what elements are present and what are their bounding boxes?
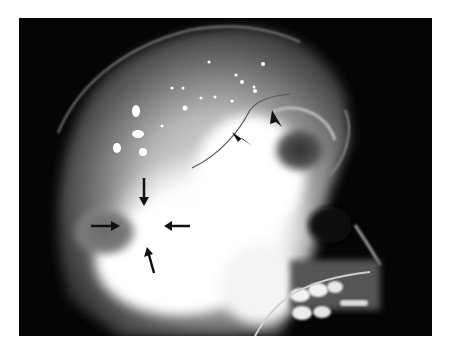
skull-radiograph: lateral skull radiograph [19,18,432,336]
orbit [272,126,328,174]
radiograph-image [19,18,432,336]
lesion-area [71,206,139,258]
